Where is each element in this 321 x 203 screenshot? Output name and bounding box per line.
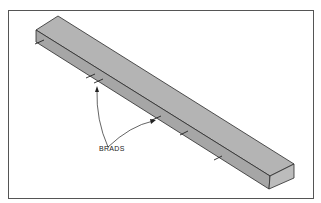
board-illustration <box>0 0 321 203</box>
leader-line-right <box>108 121 153 147</box>
leader-line-left <box>97 90 108 147</box>
arrowhead-icon <box>150 119 156 124</box>
board-side-face <box>36 30 270 189</box>
arrowhead-icon <box>95 86 99 92</box>
board-top-face <box>36 16 294 176</box>
brads-label: BRADS <box>99 145 125 152</box>
